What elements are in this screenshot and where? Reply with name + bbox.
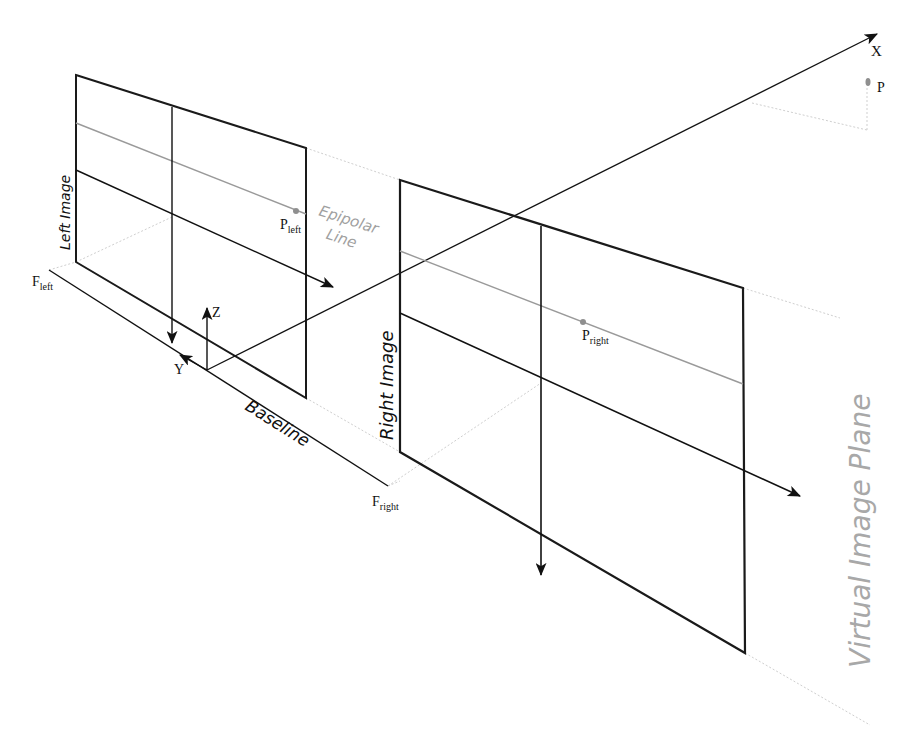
left-image-frame <box>76 75 306 398</box>
f-left-label: Fleft <box>32 274 53 292</box>
x-axis-label: X <box>871 43 882 59</box>
baseline-label: Baseline <box>242 395 314 450</box>
right-image-label: Right Image <box>376 331 397 441</box>
y-axis-label: Y <box>174 362 184 377</box>
virtual-image-plane-label: Virtual Image Plane <box>844 394 877 668</box>
guide-right-floor-diag <box>388 383 541 486</box>
guide-left-floor <box>49 262 76 270</box>
point-p <box>866 78 871 86</box>
left-image-label: Left Image <box>57 175 73 250</box>
p-left-point <box>293 208 299 214</box>
p-left-label: Pleft <box>280 217 301 235</box>
coordinate-axes <box>180 34 877 370</box>
p-right-point <box>580 319 586 325</box>
guide-p-floor <box>752 103 867 130</box>
right-image-frame <box>400 180 745 653</box>
right-image-plane <box>400 180 800 653</box>
point-p-label: P <box>877 80 885 95</box>
x-axis-arrow <box>207 34 877 370</box>
epipolar-line-label: Epipolar Line <box>311 202 386 259</box>
left-image-plane <box>76 75 333 398</box>
f-right-label: Fright <box>372 494 399 512</box>
guide-left-top-ext <box>306 148 400 180</box>
z-axis-label: Z <box>212 305 221 320</box>
stereo-geometry-diagram: X P Z Y Pleft Pright Fleft Fright Left I… <box>0 0 920 749</box>
guide-left-floor-diag <box>76 217 172 262</box>
guide-right-top-ext <box>743 288 840 318</box>
baseline-line <box>49 270 388 486</box>
